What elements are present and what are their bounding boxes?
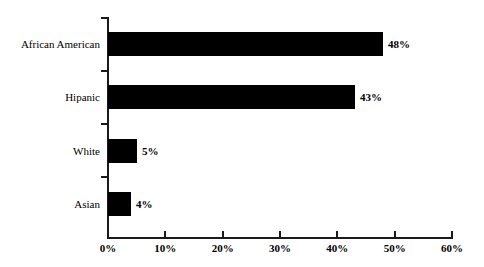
x-axis-tick-label: 40% (307, 242, 367, 255)
y-axis-tick (101, 70, 109, 72)
x-axis-tick-label: 20% (193, 242, 253, 255)
x-axis-tick-label: 50% (365, 242, 425, 255)
x-axis-tick-label: 10% (135, 242, 195, 255)
bar-hipanic (108, 85, 355, 109)
x-axis-tick-label: 60% (422, 242, 482, 255)
x-axis-tick (164, 231, 166, 238)
y-axis-tick (101, 123, 109, 125)
y-axis-tick (101, 17, 109, 19)
x-axis-tick (279, 231, 281, 238)
bar-value-label: 4% (136, 192, 153, 216)
x-axis-tick (394, 231, 396, 238)
x-axis-tick (336, 231, 338, 238)
bar-asian (108, 192, 131, 216)
category-label: African American (0, 32, 100, 56)
y-axis-tick (101, 176, 109, 178)
bar-chart: African American 48% Hipanic 43% White 5… (0, 0, 484, 267)
category-label: Asian (0, 192, 100, 216)
x-axis-tick (107, 231, 109, 238)
x-axis-tick (451, 231, 453, 238)
category-label: White (0, 139, 100, 163)
bar-african-american (108, 32, 383, 56)
x-axis-tick-label: 0% (78, 242, 138, 255)
x-axis-tick (222, 231, 224, 238)
bar-value-label: 48% (388, 32, 410, 56)
x-axis-tick-label: 30% (250, 242, 310, 255)
category-label: Hipanic (0, 85, 100, 109)
bar-value-label: 5% (142, 139, 159, 163)
bar-value-label: 43% (360, 85, 382, 109)
bar-white (108, 139, 137, 163)
